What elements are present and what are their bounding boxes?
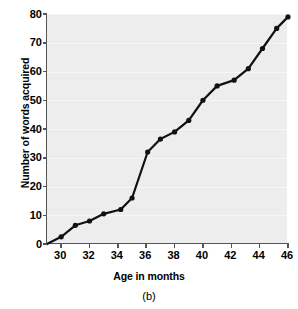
data-point-marker	[172, 129, 177, 134]
data-point-marker	[215, 83, 220, 88]
data-point-marker	[200, 98, 205, 103]
data-point-marker	[158, 136, 163, 141]
x-axis-tick	[202, 243, 204, 248]
x-axis-tick-labels: 303234363840424446	[46, 250, 287, 266]
plot-area	[46, 14, 287, 244]
y-axis-tick-label: 80	[18, 9, 42, 20]
x-axis-tick	[259, 243, 261, 248]
y-axis-tick-label: 10	[18, 210, 42, 221]
x-axis-tick-label: 38	[159, 250, 189, 261]
data-point-marker	[145, 149, 150, 154]
y-axis-tick	[43, 243, 47, 245]
data-point-marker	[87, 218, 92, 223]
y-axis-tick	[43, 186, 47, 188]
data-point-marker	[274, 26, 279, 31]
x-axis-tick-label: 32	[74, 250, 104, 261]
x-axis-tick-label: 36	[130, 250, 160, 261]
y-axis-tick	[43, 100, 47, 102]
x-axis-tick-label: 46	[272, 250, 298, 261]
x-axis-tick	[117, 243, 119, 248]
y-axis-tick	[43, 157, 47, 159]
x-axis-tick-label: 34	[102, 250, 132, 261]
x-axis-tick-label: 30	[45, 250, 75, 261]
y-axis-tick-labels: 01020304050607080	[14, 0, 42, 309]
y-axis-tick	[43, 13, 47, 15]
x-axis-tick	[60, 243, 62, 248]
y-axis-tick	[43, 42, 47, 44]
data-point-marker	[186, 118, 191, 123]
figure-panel-b: Number of words acquired 010203040506070…	[0, 0, 298, 309]
y-axis-tick-label: 0	[18, 239, 42, 250]
data-point-marker	[232, 78, 237, 83]
data-point-marker	[59, 234, 64, 239]
y-axis-tick	[43, 71, 47, 73]
y-axis-tick-label: 40	[18, 124, 42, 135]
y-axis-tick	[43, 215, 47, 217]
x-axis-title: Age in months	[0, 270, 298, 282]
data-point-marker	[129, 195, 134, 200]
data-point-marker	[73, 223, 78, 228]
x-axis-tick	[287, 243, 289, 248]
x-axis-tick-label: 44	[244, 250, 274, 261]
series-path	[47, 17, 288, 244]
x-axis-tick	[174, 243, 176, 248]
y-axis-tick-label: 20	[18, 181, 42, 192]
x-axis-tick	[231, 243, 233, 248]
data-point-marker	[246, 66, 251, 71]
x-axis-tick	[145, 243, 147, 248]
y-axis-tick-label: 70	[18, 37, 42, 48]
data-series-line	[47, 14, 288, 244]
data-point-marker	[101, 211, 106, 216]
y-axis-tick-label: 60	[18, 66, 42, 77]
x-axis-tick-label: 42	[215, 250, 245, 261]
x-axis-tick	[89, 243, 91, 248]
figure-caption: (b)	[0, 290, 298, 302]
data-point-marker	[260, 46, 265, 51]
y-axis-tick-label: 50	[18, 95, 42, 106]
y-axis-tick-label: 30	[18, 152, 42, 163]
plot-surface	[47, 14, 287, 243]
data-point-marker	[118, 207, 123, 212]
data-point-marker	[285, 14, 290, 19]
y-axis-tick	[43, 128, 47, 130]
x-axis-tick-label: 40	[187, 250, 217, 261]
